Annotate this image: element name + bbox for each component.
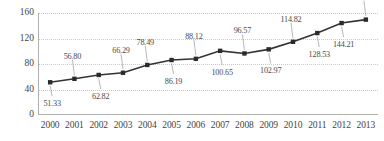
label-leader-line: [291, 23, 293, 39]
series-marker: [169, 58, 173, 62]
data-point-label: 100.65: [211, 68, 232, 77]
label-leader-line: [317, 37, 319, 48]
x-axis-tick-label: 2004: [138, 120, 157, 130]
x-axis-tick-label: 2002: [89, 120, 108, 130]
series-marker: [339, 21, 343, 25]
data-point-label: 96.57: [234, 26, 251, 35]
series-marker: [218, 49, 222, 53]
x-axis-tick-label: 2000: [41, 120, 60, 130]
x-axis-tick-label: 2005: [162, 120, 181, 130]
x-axis-tick-label: 2001: [65, 120, 84, 130]
data-point-label: 51.33: [43, 99, 60, 108]
series-marker: [48, 80, 52, 84]
series-marker: [145, 63, 149, 67]
x-axis-tick-label: 2007: [211, 120, 230, 130]
label-leader-lines: [50, 1, 366, 97]
data-point-label: 102.97: [260, 66, 281, 75]
line-chart: 04080120160 2000200120022003200420052006…: [0, 0, 384, 141]
series-marker: [315, 31, 319, 35]
series-marker: [121, 71, 125, 75]
series-marker: [194, 57, 198, 61]
series-marker: [97, 73, 101, 77]
x-axis-tick-label: 2003: [114, 120, 133, 130]
x-axis-tick-label: 2012: [332, 120, 351, 130]
series-marker: [242, 51, 246, 55]
data-point-label: 88.12: [185, 32, 202, 41]
label-leader-line: [342, 27, 344, 38]
label-leader-line: [99, 78, 101, 89]
label-leader-line: [172, 64, 174, 75]
series-marker: [364, 17, 368, 21]
data-point-label: 128.53: [309, 50, 330, 59]
x-axis-tick-label: 2013: [357, 120, 376, 130]
x-axis-tick-label: 2009: [259, 120, 278, 130]
data-point-label: 86.19: [165, 77, 182, 86]
label-leader-line: [220, 54, 222, 64]
label-leader-line: [242, 34, 244, 50]
label-leader-line: [145, 46, 147, 62]
x-axis-tick-label: 2006: [187, 120, 206, 130]
label-leader-line: [364, 1, 366, 17]
label-leader-line: [194, 40, 196, 56]
data-point-label: 114.82: [280, 15, 301, 24]
data-point-label: 144.21: [333, 40, 354, 49]
series-marker: [72, 77, 76, 81]
data-point-label: 66.29: [112, 46, 129, 55]
data-point-label: 149.61: [353, 0, 374, 2]
x-axis-tick-label: 2010: [284, 120, 303, 130]
series-marker: [291, 40, 295, 44]
x-axis-tick-label: 2011: [308, 120, 326, 130]
label-leader-line: [121, 54, 123, 69]
label-leader-line: [269, 53, 271, 64]
series-marker: [267, 47, 271, 51]
label-leader-line: [50, 86, 52, 97]
data-point-label: 62.82: [92, 92, 109, 101]
data-point-label: 78.49: [137, 38, 154, 47]
data-point-label: 56.80: [64, 52, 81, 61]
label-leader-line: [72, 60, 74, 76]
x-axis-tick-label: 2008: [235, 120, 254, 130]
